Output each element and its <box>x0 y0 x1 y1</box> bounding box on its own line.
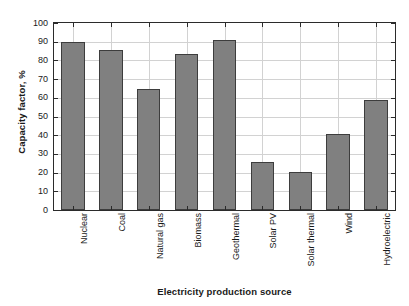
y-tick-mark <box>391 23 395 24</box>
y-tick-label: 20 <box>22 168 48 177</box>
x-tick-mark <box>111 23 112 27</box>
x-tick-mark <box>338 23 339 27</box>
y-tick-mark <box>391 117 395 118</box>
x-tick-mark <box>376 206 377 210</box>
y-tick-mark <box>54 23 58 24</box>
x-tick-label: Solar thermal <box>304 133 318 213</box>
x-tick-label: Natural gas <box>153 133 167 213</box>
y-tick-mark <box>54 210 58 211</box>
y-tick-mark <box>54 173 58 174</box>
x-tick-label: Coal <box>115 133 129 213</box>
y-tick-mark <box>54 191 58 192</box>
x-tick-label: Solar PV <box>266 133 280 213</box>
y-tick-label: 50 <box>22 112 48 121</box>
x-axis-title: Electricity production source <box>53 286 396 297</box>
x-tick-label-text: Geothermal <box>229 213 243 293</box>
y-tick-label: 0 <box>22 206 48 215</box>
x-tick-label-text: Hydroelectric <box>380 213 394 293</box>
y-axis-tick-labels: 0102030405060708090100 <box>22 0 48 306</box>
x-tick-mark <box>262 206 263 210</box>
x-axis-tick-labels: NuclearCoalNatural gasBiomassGeothermalS… <box>53 213 396 285</box>
x-tick-mark <box>225 206 226 210</box>
x-tick-label-text: Wind <box>342 213 356 293</box>
x-tick-label-text: Solar PV <box>266 213 280 293</box>
y-tick-label: 40 <box>22 131 48 140</box>
y-tick-label: 90 <box>22 37 48 46</box>
y-tick-label: 80 <box>22 56 48 65</box>
y-tick-mark <box>54 135 58 136</box>
x-tick-mark <box>300 206 301 210</box>
x-tick-mark <box>73 206 74 210</box>
x-tick-mark <box>111 206 112 210</box>
y-tick-mark <box>54 60 58 61</box>
x-tick-mark <box>149 206 150 210</box>
y-tick-mark <box>391 98 395 99</box>
x-tick-label: Wind <box>342 133 356 213</box>
y-tick-mark <box>54 42 58 43</box>
x-tick-mark <box>338 206 339 210</box>
x-tick-mark <box>262 23 263 27</box>
x-tick-mark <box>376 23 377 27</box>
y-tick-mark <box>54 154 58 155</box>
bar-chart-figure: Capacity factor, % 010203040506070809010… <box>0 0 409 306</box>
y-tick-label: 30 <box>22 149 48 158</box>
y-tick-label: 100 <box>22 19 48 28</box>
y-tick-mark <box>54 98 58 99</box>
y-tick-mark <box>391 42 395 43</box>
y-tick-label: 70 <box>22 75 48 84</box>
x-tick-mark <box>149 23 150 27</box>
x-tick-mark <box>225 23 226 27</box>
x-tick-mark <box>187 206 188 210</box>
x-tick-label: Nuclear <box>77 133 91 213</box>
y-tick-mark <box>54 117 58 118</box>
x-tick-label-text: Solar thermal <box>304 213 318 293</box>
y-tick-label: 10 <box>22 187 48 196</box>
y-tick-label: 60 <box>22 93 48 102</box>
y-tick-mark <box>54 79 58 80</box>
x-tick-mark <box>187 23 188 27</box>
x-tick-label: Hydroelectric <box>380 133 394 213</box>
x-tick-label-text: Biomass <box>191 213 205 293</box>
y-tick-mark <box>391 79 395 80</box>
x-tick-mark <box>300 23 301 27</box>
x-tick-label: Biomass <box>191 133 205 213</box>
x-tick-label-text: Coal <box>115 213 129 293</box>
x-tick-label-text: Natural gas <box>153 213 167 293</box>
y-tick-mark <box>391 60 395 61</box>
x-tick-label-text: Nuclear <box>77 213 91 293</box>
x-tick-mark <box>73 23 74 27</box>
x-tick-label: Geothermal <box>229 133 243 213</box>
